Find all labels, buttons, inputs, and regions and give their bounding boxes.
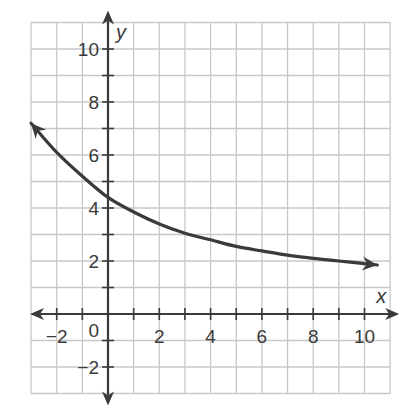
x-tick-label: 4: [205, 326, 216, 347]
graph: −2246810−22468100 x y: [0, 0, 407, 415]
y-tick-label: 10: [78, 39, 99, 60]
x-tick-label: 10: [354, 326, 375, 347]
y-tick-label: 2: [88, 251, 99, 272]
x-axis-label: x: [375, 285, 387, 307]
y-tick-label: −2: [77, 357, 99, 378]
x-tick-label: 6: [257, 326, 268, 347]
x-tick-label: 2: [154, 326, 165, 347]
x-tick-label: −2: [46, 326, 68, 347]
y-tick-label: 6: [88, 145, 99, 166]
origin-label: 0: [88, 320, 99, 341]
y-tick-label: 8: [88, 92, 99, 113]
y-tick-label: 4: [88, 198, 99, 219]
x-tick-label: 8: [308, 326, 319, 347]
y-axis-label: y: [114, 21, 127, 43]
